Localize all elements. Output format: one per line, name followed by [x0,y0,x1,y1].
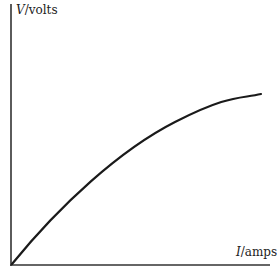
y-axis-unit: /volts [25,3,58,17]
vi-graph [0,0,278,276]
x-axis-unit: /amps [241,245,277,259]
y-axis-variable: V [16,3,25,17]
y-axis-label: V/volts [16,3,58,17]
vi-curve [12,94,261,264]
x-axis-label: I/amps [236,245,277,259]
